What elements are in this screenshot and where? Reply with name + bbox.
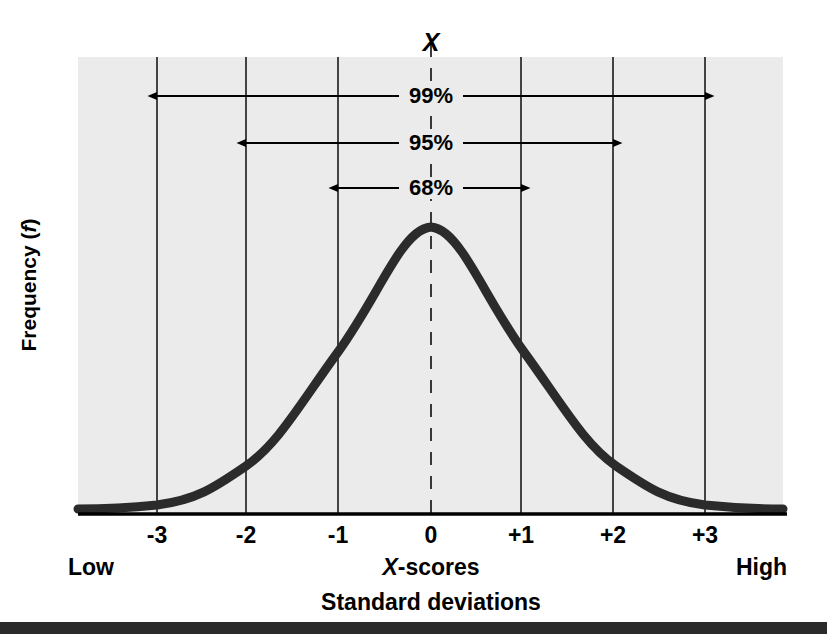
annotation-label-95: 95% bbox=[402, 132, 460, 154]
x-tick-label-plus2: +2 bbox=[600, 524, 626, 547]
x-axis-title: X-scores bbox=[382, 556, 479, 579]
y-axis-title: Frequency (f) bbox=[18, 218, 39, 351]
x-axis-title-suffix: -scores bbox=[398, 554, 480, 580]
x-tick-label-minus3: -3 bbox=[147, 524, 167, 547]
y-axis-title-suffix: ) bbox=[17, 218, 40, 225]
x-tick-label-plus1: +1 bbox=[508, 524, 534, 547]
footer-bar bbox=[0, 622, 827, 634]
x-axis-low-label: Low bbox=[68, 556, 114, 579]
annotation-label-68: 68% bbox=[402, 177, 460, 199]
distribution-variable-label: X bbox=[423, 30, 440, 55]
y-axis-title-prefix: Frequency ( bbox=[17, 232, 40, 351]
normal-distribution-figure: X 99% 95% 68% -3 -2 -1 0 +1 +2 +3 Freque… bbox=[0, 0, 827, 634]
y-axis-title-variable: f bbox=[17, 225, 40, 232]
x-tick-label-minus1: -1 bbox=[328, 524, 348, 547]
x-axis-title-variable: X bbox=[382, 554, 397, 580]
x-axis-high-label: High bbox=[736, 556, 787, 579]
x-tick-label-plus3: +3 bbox=[692, 524, 718, 547]
x-axis-subtitle: Standard deviations bbox=[321, 591, 541, 614]
x-tick-label-zero: 0 bbox=[425, 524, 438, 547]
annotation-label-99: 99% bbox=[402, 85, 460, 107]
x-tick-label-minus2: -2 bbox=[236, 524, 256, 547]
